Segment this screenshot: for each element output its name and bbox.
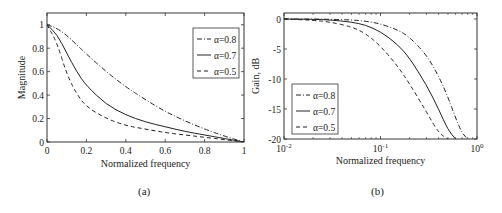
x-tick-label: 0 — [45, 146, 50, 156]
x-axis-label: Normalized frequency — [101, 158, 191, 169]
legend: α=0.8α=0.7α=0.5 — [292, 84, 338, 134]
x-tick-label: 10-2 — [276, 142, 292, 154]
y-tick-label: -20 — [268, 135, 281, 145]
y-tick-label: -10 — [268, 75, 281, 85]
y-tick-label: 0 — [276, 15, 281, 25]
x-tick-label: 1 — [242, 146, 247, 156]
figure: 00.20.40.60.8100.20.40.60.81Normalized f… — [0, 0, 502, 213]
chart-a: 00.20.40.60.8100.20.40.60.81Normalized f… — [16, 13, 247, 169]
y-tick-label: 0.8 — [32, 44, 44, 54]
x-tick-label: 0.4 — [120, 146, 132, 156]
y-tick-label: -5 — [273, 45, 281, 55]
y-tick-label: 1 — [39, 20, 44, 30]
legend: α=0.8α=0.7α=0.5 — [193, 28, 239, 78]
chart-b: 0-5-10-15-2010-210-1100Normalized freque… — [250, 13, 484, 166]
y-tick-label: 0.2 — [32, 114, 44, 124]
x-axis-label: Normalized frequency — [336, 155, 426, 166]
y-axis-label: Magnitude — [16, 55, 27, 99]
y-tick-label: 0.6 — [32, 67, 44, 77]
y-axis-label: Gain, dB — [250, 58, 261, 94]
legend-entry: α=0.5 — [214, 67, 236, 77]
x-tick-label: 0.6 — [159, 146, 171, 156]
x-tick-label: 0.2 — [80, 146, 92, 156]
x-tick-label: 10-1 — [373, 142, 389, 154]
caption-b: (b) — [371, 185, 384, 197]
legend-entry: α=0.7 — [214, 51, 236, 61]
x-tick-label: 100 — [471, 142, 485, 154]
y-tick-label: 0.4 — [32, 91, 44, 101]
legend-entry: α=0.5 — [313, 123, 335, 133]
y-tick-label: -15 — [268, 105, 281, 115]
legend-entry: α=0.8 — [214, 35, 236, 45]
legend-entry: α=0.8 — [313, 91, 335, 101]
y-tick-label: 0 — [39, 138, 44, 148]
legend-entry: α=0.7 — [313, 107, 335, 117]
x-tick-label: 0.8 — [199, 146, 211, 156]
caption-a: (a) — [138, 185, 150, 197]
